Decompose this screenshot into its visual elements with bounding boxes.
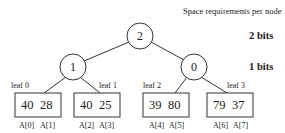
node-0-label: 0 [184, 61, 204, 73]
root-node-label: 2 [130, 30, 150, 42]
leaf-3-value-0: 79 [213, 99, 226, 112]
leaf-2-label: leaf 2 [143, 82, 161, 90]
tree-edges [0, 0, 285, 133]
leaf-2-value-0: 39 [149, 99, 162, 112]
leaf-3-value-1: 37 [232, 99, 245, 112]
index-a0: A[0] [19, 122, 34, 130]
index-a3: A[3] [99, 122, 114, 130]
legend-title: Space requirements per node [183, 7, 281, 16]
leaf-1-label: leaf 1 [99, 82, 117, 90]
leaf-1-value-0: 40 [80, 99, 93, 112]
index-a5: A[5] [169, 122, 184, 130]
index-a1: A[1] [40, 122, 55, 130]
leaf-0-value-0: 40 [21, 99, 34, 112]
index-a7: A[7] [233, 122, 248, 130]
leaf-2-value-1: 80 [168, 99, 181, 112]
index-a2: A[2] [79, 122, 94, 130]
leaf-3-label: leaf 3 [227, 82, 245, 90]
index-a6: A[6] [213, 122, 228, 130]
leaf-1-value-1: 25 [99, 99, 112, 112]
leaf-0-value-1: 28 [40, 99, 53, 112]
node-1-label: 1 [63, 61, 83, 73]
leaf-0-label: leaf 0 [11, 82, 29, 90]
legend-level-0: 2 bits [249, 31, 273, 42]
legend-level-1: 1 bits [249, 62, 273, 73]
index-a4: A[4] [149, 122, 164, 130]
